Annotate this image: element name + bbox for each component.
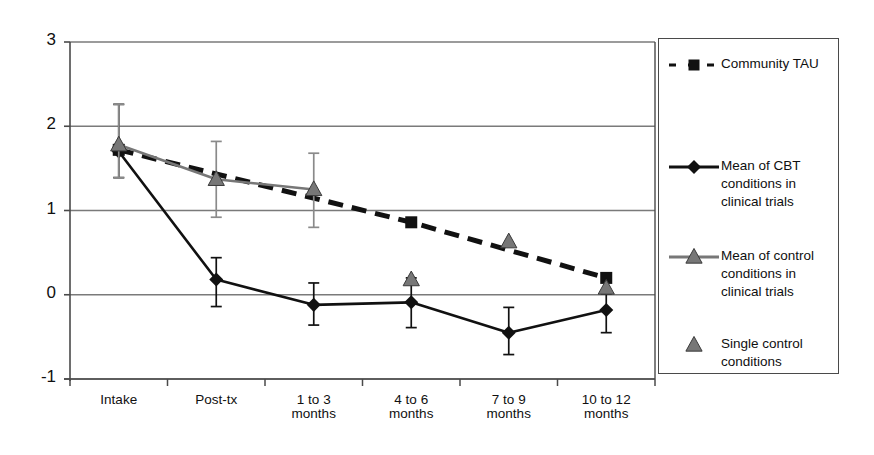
marker-triangle <box>403 271 419 286</box>
legend-entry-3[interactable]: Single control conditions <box>667 335 838 371</box>
x-axis-label-line2: months <box>551 407 661 421</box>
x-axis-label-line1: Intake <box>64 393 174 407</box>
legend-key-triangle-icon <box>667 336 721 354</box>
x-axis-label-3: 4 to 6months <box>356 393 466 421</box>
x-axis-label-line1: 10 to 12 <box>551 393 661 407</box>
x-axis-label-0: Intake <box>64 393 174 407</box>
x-axis-label-line1: 1 to 3 <box>259 393 369 407</box>
legend-marker-icon <box>667 336 721 354</box>
chart-legend: Community TAUMean of CBT conditions in c… <box>658 38 839 374</box>
marker-square <box>405 216 417 228</box>
marker-triangle <box>686 336 702 351</box>
x-axis-label-1: Post-tx <box>161 393 271 407</box>
legend-key-diamond-icon <box>667 158 721 176</box>
marker-diamond <box>599 303 613 317</box>
series-3 <box>403 233 614 294</box>
marker-square <box>689 60 700 71</box>
marker-diamond <box>307 298 321 312</box>
x-axis-label-line1: Post-tx <box>161 393 271 407</box>
legend-entry-0[interactable]: Community TAU <box>667 55 819 74</box>
legend-label-2: Mean of control conditions in clinical t… <box>721 247 838 300</box>
legend-label-0: Community TAU <box>721 55 819 73</box>
y-axis-label-2: 2 <box>14 115 56 133</box>
y-axis-label-3: 3 <box>14 31 56 49</box>
y-axis-label-1: 1 <box>14 200 56 218</box>
y-axis-label-0: 0 <box>14 284 56 302</box>
chart-figure: 3210-1 IntakePost-tx1 to 3months4 to 6mo… <box>0 0 874 455</box>
legend-marker-icon <box>667 56 721 74</box>
x-axis-label-line2: months <box>259 407 369 421</box>
x-axis-label-5: 10 to 12months <box>551 393 661 421</box>
series-line <box>119 152 607 333</box>
x-axis-label-2: 1 to 3months <box>259 393 369 421</box>
marker-triangle <box>501 233 517 248</box>
series-0 <box>113 144 613 284</box>
series-1 <box>112 104 614 354</box>
legend-marker-icon <box>667 158 721 176</box>
data-series-layer <box>111 104 615 354</box>
x-axis-label-line2: months <box>356 407 466 421</box>
legend-marker-icon <box>667 248 721 266</box>
x-axis-label-line1: 4 to 6 <box>356 393 466 407</box>
x-axis-label-line2: months <box>454 407 564 421</box>
marker-diamond <box>502 326 516 340</box>
legend-label-3: Single control conditions <box>721 335 838 371</box>
x-axis-ticks <box>70 379 655 386</box>
legend-key-triangle-icon <box>667 248 721 266</box>
x-axis-label-4: 7 to 9months <box>454 393 564 421</box>
y-axis-label--1: -1 <box>14 368 56 386</box>
legend-entry-2[interactable]: Mean of control conditions in clinical t… <box>667 247 838 300</box>
marker-diamond <box>404 295 418 309</box>
series-line <box>119 150 607 278</box>
series-2 <box>111 104 322 227</box>
marker-triangle <box>111 136 127 151</box>
legend-key-square-icon <box>667 56 721 74</box>
legend-label-1: Mean of CBT conditions in clinical trial… <box>721 157 838 210</box>
legend-entry-1[interactable]: Mean of CBT conditions in clinical trial… <box>667 157 838 210</box>
x-axis-label-line1: 7 to 9 <box>454 393 564 407</box>
marker-diamond <box>687 160 701 174</box>
